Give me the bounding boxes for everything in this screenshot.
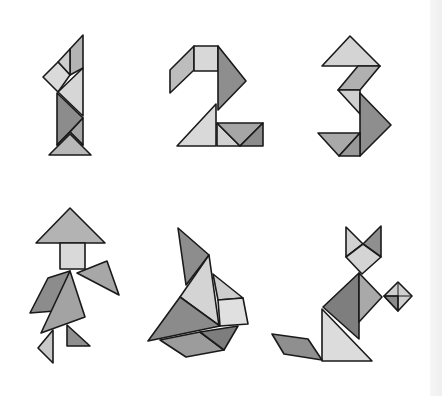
- figure-number-two: [170, 46, 263, 146]
- ball-shade: [384, 296, 398, 311]
- page-edge: [430, 0, 442, 396]
- tangram-piece: [322, 36, 380, 66]
- tangram-piece: [213, 274, 243, 300]
- figure-number-one: [43, 35, 91, 155]
- tangram-piece: [36, 208, 105, 243]
- figure-cat: [272, 226, 412, 361]
- tangram-piece: [272, 334, 322, 360]
- figure-number-three: [318, 36, 391, 156]
- tangram-piece: [338, 66, 380, 90]
- tangram-piece: [338, 90, 360, 114]
- tangram-piece: [67, 325, 90, 346]
- tangram-piece: [218, 46, 246, 110]
- tangram-piece: [194, 46, 218, 71]
- figure-person: [30, 208, 119, 363]
- tangram-piece: [218, 298, 248, 326]
- tangram-piece: [60, 243, 85, 269]
- tangram-piece: [177, 104, 216, 146]
- figure-rabbit: [148, 228, 248, 357]
- tangram-piece: [170, 46, 194, 93]
- tangram-piece: [359, 273, 382, 322]
- tangram-piece: [49, 134, 91, 155]
- tangram-piece: [360, 93, 391, 156]
- tangram-canvas: [0, 0, 442, 396]
- tangram-piece: [38, 330, 53, 363]
